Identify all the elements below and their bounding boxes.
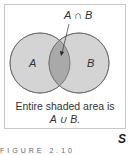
figure-label: FIGURE 2.10 (0, 147, 75, 154)
venn-diagram (0, 0, 136, 155)
caption-line-1: Entire shaded area is (4, 100, 126, 113)
intersection-label: A ∩ B (64, 9, 92, 21)
caption-line-2: A ∪ B. (4, 113, 126, 126)
section-marker: S (118, 132, 126, 146)
set-a-label: A (29, 57, 36, 69)
set-b-label: B (87, 57, 94, 69)
